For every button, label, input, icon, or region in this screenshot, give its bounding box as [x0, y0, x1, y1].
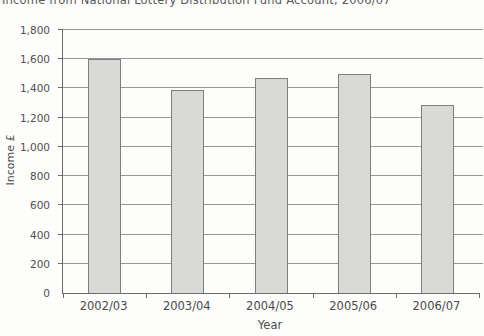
- x-axis-tick: [229, 293, 230, 298]
- plot-area: [62, 30, 479, 294]
- x-tick-label: 2005/06: [329, 299, 377, 313]
- y-tick-label: 1,800: [20, 24, 50, 36]
- x-axis-tick: [313, 293, 314, 298]
- chart-title: Income from National Lottery Distributio…: [2, 0, 391, 7]
- y-tick-label: 200: [30, 258, 50, 270]
- y-axis-tick: [58, 87, 63, 88]
- x-axis-tick-labels: 2002/032003/042004/052005/062006/07: [62, 299, 478, 313]
- bar-chart: Income from National Lottery Distributio…: [0, 0, 484, 336]
- y-axis-tick-labels: 02004006008001,0001,2001,4001,6001,800: [0, 30, 58, 293]
- bar-2004/05: [255, 78, 288, 293]
- gridline: [63, 58, 483, 59]
- y-axis-tick: [58, 175, 63, 176]
- y-axis-tick: [58, 204, 63, 205]
- bar-2005/06: [338, 74, 371, 293]
- bar-2003/04: [171, 90, 204, 293]
- x-tick-label: 2004/05: [246, 299, 294, 313]
- gridline: [63, 29, 483, 30]
- y-tick-label: 1,400: [20, 82, 50, 94]
- y-tick-label: 1,600: [20, 53, 50, 65]
- y-tick-label: 0: [43, 287, 50, 299]
- x-tick-label: 2002/03: [80, 299, 128, 313]
- y-tick-label: 1,200: [20, 112, 50, 124]
- x-axis-title: Year: [258, 318, 282, 332]
- y-axis-tick: [58, 58, 63, 59]
- bar-2006/07: [421, 105, 454, 293]
- y-axis-tick: [58, 29, 63, 30]
- x-tick-label: 2006/07: [413, 299, 461, 313]
- y-axis-tick: [58, 146, 63, 147]
- x-axis-tick: [63, 293, 64, 298]
- x-axis-tick: [146, 293, 147, 298]
- bar-2002/03: [88, 59, 121, 293]
- x-tick-label: 2003/04: [163, 299, 211, 313]
- x-axis-tick: [479, 293, 480, 298]
- y-tick-label: 1,000: [20, 141, 50, 153]
- x-axis-tick: [396, 293, 397, 298]
- y-tick-label: 600: [30, 199, 50, 211]
- y-axis-tick: [58, 117, 63, 118]
- y-tick-label: 400: [30, 229, 50, 241]
- y-tick-label: 800: [30, 170, 50, 182]
- y-axis-tick: [58, 234, 63, 235]
- y-axis-tick: [58, 263, 63, 264]
